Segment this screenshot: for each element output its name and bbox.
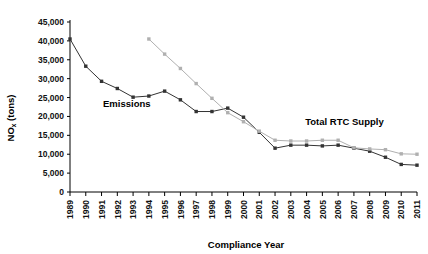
data-point [273, 139, 276, 142]
y-axis-tick-label: 10,000 [38, 149, 64, 159]
x-axis-tick-label: 1991 [97, 200, 107, 219]
x-axis-tick-label: 2003 [286, 200, 296, 219]
data-point [179, 98, 182, 101]
data-point [210, 110, 213, 113]
data-point [321, 139, 324, 142]
x-axis-tick-label: 1992 [113, 200, 123, 219]
y-axis-tick-label: 5,000 [43, 168, 65, 178]
svg-text:NOx (tons): NOx (tons) [5, 95, 17, 142]
data-point [258, 129, 261, 132]
y-axis-title-unit: (tons) [5, 95, 16, 124]
data-point [273, 146, 276, 149]
data-point [336, 139, 339, 142]
data-point [289, 139, 292, 142]
x-axis-tick-label: 1989 [65, 200, 75, 219]
x-axis-tick-label: 1999 [223, 200, 233, 219]
data-point [352, 146, 355, 149]
data-point [84, 65, 87, 68]
data-point [242, 116, 245, 119]
x-axis: 1989199019911992199319941995199619971998… [65, 192, 422, 219]
data-point [68, 37, 71, 40]
data-point [147, 37, 150, 40]
data-point [116, 87, 119, 90]
y-axis-tick-label: 45,000 [38, 17, 64, 27]
y-axis-title: NOx (tons) [5, 95, 17, 142]
x-axis-tick-label: 1996 [176, 200, 186, 219]
x-axis-tick-label: 2008 [365, 200, 375, 219]
x-axis-tick-label: 2006 [333, 200, 343, 219]
y-axis: 05,00010,00015,00020,00025,00030,00035,0… [38, 17, 70, 197]
data-point [194, 82, 197, 85]
data-point [305, 139, 308, 142]
x-axis-tick-label: 1997 [191, 200, 201, 219]
y-axis-tick-label: 40,000 [38, 36, 64, 46]
x-axis-tick-label: 1993 [128, 200, 138, 219]
x-axis-tick-label: 2002 [270, 200, 280, 219]
y-axis-tick-label: 30,000 [38, 74, 64, 84]
y-axis-title-main: NO [5, 127, 16, 141]
data-point [194, 110, 197, 113]
series-label: Emissions [103, 98, 151, 109]
data-point [415, 163, 418, 166]
y-axis-tick-label: 20,000 [38, 111, 64, 121]
x-axis-tick-label: 2011 [412, 200, 422, 219]
data-point [242, 120, 245, 123]
data-point [336, 143, 339, 146]
x-axis-tick-label: 2009 [381, 200, 391, 219]
data-point [415, 153, 418, 156]
data-point [289, 143, 292, 146]
data-point [163, 52, 166, 55]
data-point [400, 163, 403, 166]
nox-emissions-line-chart: 05,00010,00015,00020,00025,00030,00035,0… [0, 0, 428, 254]
data-point [163, 89, 166, 92]
data-point [321, 144, 324, 147]
data-point [400, 152, 403, 155]
x-axis-tick-label: 1995 [160, 200, 170, 219]
data-point [100, 80, 103, 83]
y-axis-tick-label: 25,000 [38, 93, 64, 103]
x-axis-tick-label: 1990 [81, 200, 91, 219]
data-point [210, 97, 213, 100]
data-point [179, 67, 182, 70]
x-axis-tick-label: 2007 [349, 200, 359, 219]
data-point [384, 156, 387, 159]
x-axis-tick-label: 2004 [302, 200, 312, 219]
series-label: Total RTC Supply [305, 116, 384, 127]
x-axis-tick-label: 2005 [318, 200, 328, 219]
data-point [368, 147, 371, 150]
data-point [384, 148, 387, 151]
series-line [149, 39, 417, 154]
x-axis-tick-label: 2001 [254, 200, 264, 219]
y-axis-tick-label: 15,000 [38, 130, 64, 140]
x-axis-tick-label: 1998 [207, 200, 217, 219]
data-point [226, 111, 229, 114]
chart-canvas: 05,00010,00015,00020,00025,00030,00035,0… [0, 0, 428, 254]
series-total-rtc-supply [147, 37, 419, 156]
x-axis-tick-label: 1994 [144, 200, 154, 219]
y-axis-tick-label: 0 [59, 187, 64, 197]
data-point [305, 143, 308, 146]
data-point [226, 106, 229, 109]
x-axis-title: Compliance Year [208, 239, 285, 250]
x-axis-tick-label: 2000 [239, 200, 249, 219]
x-axis-tick-label: 2010 [396, 200, 406, 219]
y-axis-tick-label: 35,000 [38, 55, 64, 65]
